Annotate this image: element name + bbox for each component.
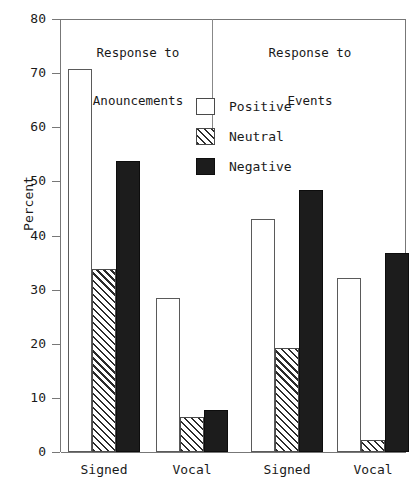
y-axis-tick	[52, 398, 60, 399]
legend-label-neutral: Neutral	[229, 127, 284, 146]
bar-positive-vocal-panel0	[156, 298, 180, 452]
y-axis-tick	[52, 290, 60, 291]
legend-swatch-neutral	[196, 128, 215, 145]
bar-positive-signed-panel1	[251, 219, 275, 452]
bar-neutral-signed-panel0	[92, 269, 116, 452]
bar-positive-vocal-panel1	[337, 278, 361, 452]
y-axis-tick-label: 60	[30, 120, 46, 133]
bar-neutral-signed-panel1	[275, 348, 299, 452]
x-axis-label-signed-panel0: Signed	[54, 462, 154, 477]
bar-negative-signed-panel0	[116, 161, 140, 452]
legend-swatch-positive	[196, 98, 215, 115]
y-axis-tick-label: 80	[30, 12, 46, 25]
y-axis-tick	[52, 73, 60, 74]
y-axis-tick	[52, 127, 60, 128]
bar-negative-signed-panel1	[299, 190, 323, 453]
bar-negative-vocal-panel0	[204, 410, 228, 452]
x-axis-label-vocal-panel0: Vocal	[142, 462, 242, 477]
y-axis-title: Percent	[21, 154, 36, 254]
legend-label-positive: Positive	[229, 97, 292, 116]
y-axis-tick	[52, 452, 60, 453]
bar-chart: 01020304050607080 Percent Response to An…	[0, 0, 418, 489]
bar-neutral-vocal-panel1	[361, 440, 385, 452]
y-axis-tick	[52, 181, 60, 182]
y-axis-tick	[52, 236, 60, 237]
y-axis-tick-label: 10	[30, 391, 46, 404]
y-axis-tick-label: 30	[30, 283, 46, 296]
x-axis-label-vocal-panel1: Vocal	[323, 462, 418, 477]
x-axis-line	[61, 452, 406, 453]
bar-neutral-vocal-panel0	[180, 417, 204, 452]
bar-positive-signed-panel0	[68, 69, 92, 452]
y-axis-tick-label: 0	[38, 445, 46, 458]
y-axis-tick-label: 70	[30, 66, 46, 79]
legend-swatch-negative	[196, 158, 215, 175]
y-axis-tick-label: 20	[30, 337, 46, 350]
legend-label-negative: Negative	[229, 157, 292, 176]
y-axis-tick	[52, 344, 60, 345]
y-axis-tick	[52, 19, 60, 20]
bars-layer	[61, 19, 406, 452]
bar-negative-vocal-panel1	[385, 253, 409, 452]
x-axis-label-signed-panel1: Signed	[237, 462, 337, 477]
